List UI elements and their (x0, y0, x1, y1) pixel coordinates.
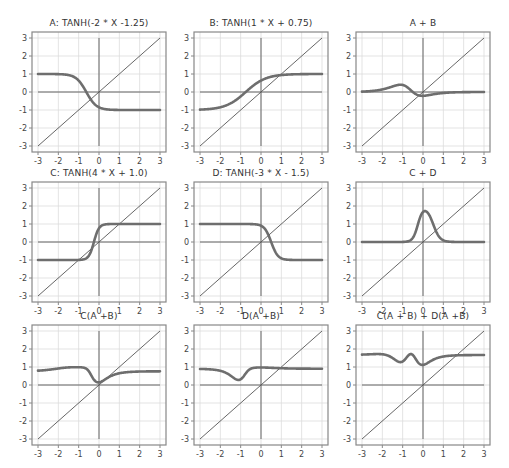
y-tick-label: 1 (346, 363, 351, 372)
x-tick-label: 1 (441, 450, 446, 459)
plot-area: -3-2-10123-3-2-10123 (0, 0, 509, 468)
y-tick-label: 2 (346, 345, 351, 354)
y-tick-label: 0 (346, 381, 351, 390)
y-tick-label: -3 (343, 435, 351, 444)
x-tick-label: 0 (420, 450, 425, 459)
x-tick-label: 2 (461, 450, 466, 459)
x-tick-label: -1 (399, 450, 407, 459)
x-tick-label: -3 (358, 450, 366, 459)
y-tick-label: -1 (343, 399, 351, 408)
y-tick-label: -2 (343, 417, 351, 426)
y-tick-label: 3 (346, 327, 351, 336)
x-tick-label: -2 (378, 450, 386, 459)
x-tick-label: 3 (481, 450, 486, 459)
